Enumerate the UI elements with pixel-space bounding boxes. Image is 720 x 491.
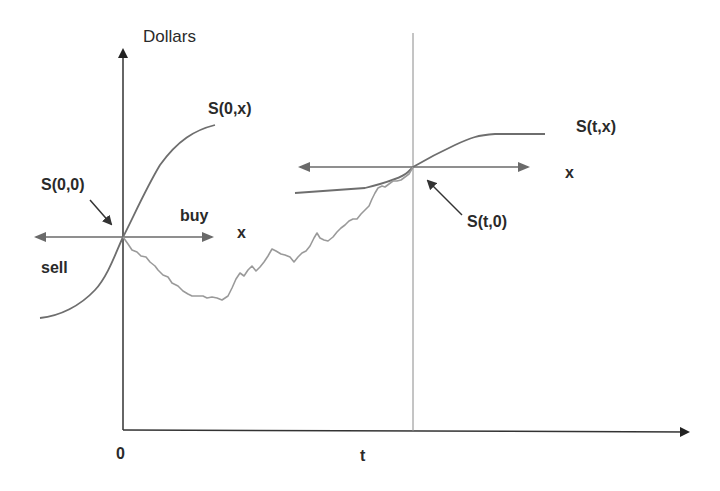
x-tick-t: t — [360, 448, 365, 464]
label-sell: sell — [41, 260, 68, 276]
pointer-arrow-s00 — [90, 200, 111, 224]
label-x-time-0: x — [237, 225, 246, 241]
label-stx: S(t,x) — [576, 119, 616, 135]
supply-curve-diagram — [0, 0, 720, 491]
y-axis-label: Dollars — [143, 28, 196, 45]
supply-curve-time-t — [295, 134, 545, 193]
label-s0x: S(0,x) — [208, 101, 252, 117]
label-x-time-t: x — [565, 165, 574, 181]
x-axis — [123, 430, 688, 432]
pointer-arrow-st0 — [428, 181, 462, 215]
x-tick-origin: 0 — [116, 446, 125, 462]
label-buy: buy — [180, 208, 208, 224]
label-st0: S(t,0) — [467, 214, 507, 230]
label-s00: S(0,0) — [41, 177, 85, 193]
